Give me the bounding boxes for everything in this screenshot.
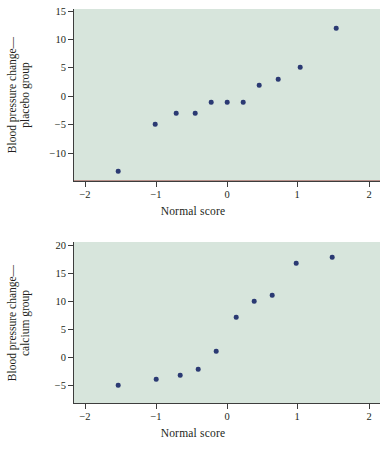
y-tick-calcium — [68, 385, 73, 386]
y-tick-calcium — [68, 329, 73, 330]
x-tick-label-placebo: 0 — [224, 189, 229, 200]
data-point — [153, 122, 158, 127]
y-tick-placebo — [68, 11, 73, 12]
data-point — [234, 315, 239, 320]
y-tick-label-calcium: 20 — [42, 240, 66, 251]
x-tick-label-calcium: −2 — [79, 411, 90, 422]
y-tick-label-calcium: 10 — [42, 296, 66, 307]
x-tick-calcium — [369, 404, 370, 409]
y-tick-label-placebo: 15 — [42, 6, 66, 17]
data-point — [196, 367, 201, 372]
y-tick-calcium — [68, 273, 73, 274]
data-point — [334, 26, 339, 31]
data-point — [270, 293, 275, 298]
y-tick-label-calcium: 5 — [42, 324, 66, 335]
x-tick-label-calcium: 1 — [294, 411, 299, 422]
y-axis-line-calcium — [73, 242, 74, 404]
y-tick-label-calcium: 15 — [42, 268, 66, 279]
data-point — [178, 373, 183, 378]
data-point — [193, 111, 198, 116]
y-axis-title-line-1: Blood pressure change— — [6, 20, 19, 170]
data-point — [225, 100, 230, 105]
x-tick-placebo — [227, 182, 228, 187]
y-tick-calcium — [68, 245, 73, 246]
x-tick-calcium — [297, 404, 298, 409]
plot-area-placebo — [73, 9, 380, 181]
y-axis-title-line-1: Blood pressure change— — [6, 248, 19, 398]
y-axis-title-placebo: Blood pressure change— placebo group — [6, 20, 32, 170]
y-tick-label-placebo: −10 — [42, 148, 66, 159]
x-tick-placebo — [297, 182, 298, 187]
y-tick-placebo — [68, 67, 73, 68]
data-point — [241, 100, 246, 105]
y-tick-placebo — [68, 39, 73, 40]
y-axis-title-calcium: Blood pressure change— calcium group — [6, 248, 32, 398]
y-tick-label-placebo: 0 — [42, 91, 66, 102]
data-point — [298, 65, 303, 70]
x-tick-label-calcium: 0 — [224, 411, 229, 422]
y-axis-title-line-2: calcium group — [19, 248, 32, 398]
y-tick-calcium — [68, 357, 73, 358]
y-tick-label-calcium: −5 — [42, 380, 66, 391]
x-tick-label-calcium: 2 — [366, 411, 371, 422]
x-tick-label-placebo: 2 — [366, 189, 371, 200]
data-point — [209, 100, 214, 105]
x-tick-calcium — [227, 404, 228, 409]
x-tick-placebo — [85, 182, 86, 187]
x-tick-label-placebo: 1 — [294, 189, 299, 200]
data-point — [174, 111, 179, 116]
y-tick-placebo — [68, 124, 73, 125]
y-tick-label-calcium: 0 — [42, 352, 66, 363]
data-point — [116, 169, 121, 174]
x-tick-label-placebo: −2 — [79, 189, 90, 200]
data-point — [330, 255, 335, 260]
y-tick-label-placebo: −5 — [42, 119, 66, 130]
data-point — [116, 383, 121, 388]
x-tick-label-calcium: −1 — [150, 411, 161, 422]
data-point — [257, 83, 262, 88]
x-tick-label-placebo: −1 — [150, 189, 161, 200]
data-point — [214, 349, 219, 354]
y-tick-placebo — [68, 96, 73, 97]
y-axis-line-placebo — [73, 9, 74, 182]
data-point — [294, 261, 299, 266]
y-axis-title-line-2: placebo group — [19, 20, 32, 170]
figure-calcium-normal-quantile-plot: 20 15 10 5 0 −5 −2 −1 0 1 2 Normal score… — [0, 228, 386, 455]
plot-area-calcium — [73, 242, 380, 403]
data-point — [276, 77, 281, 82]
x-axis-title-calcium: Normal score — [0, 427, 386, 439]
x-tick-placebo — [369, 182, 370, 187]
y-tick-label-placebo: 5 — [42, 62, 66, 73]
figure-placebo-normal-quantile-plot: 15 10 5 0 −5 −10 −2 −1 0 1 2 Normal scor… — [0, 0, 386, 228]
y-tick-placebo — [68, 153, 73, 154]
x-tick-placebo — [156, 182, 157, 187]
x-tick-calcium — [85, 404, 86, 409]
x-axis-title-placebo: Normal score — [0, 205, 386, 217]
data-point — [252, 299, 257, 304]
y-tick-calcium — [68, 301, 73, 302]
data-point — [154, 377, 159, 382]
x-tick-calcium — [156, 404, 157, 409]
y-tick-label-placebo: 10 — [42, 34, 66, 45]
